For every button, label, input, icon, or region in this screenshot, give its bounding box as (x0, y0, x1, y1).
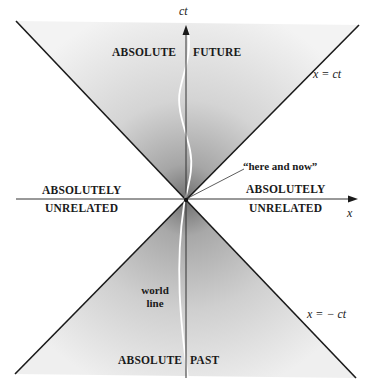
absolute-future-label-left: ABSOLUTE (112, 47, 176, 59)
x-equals-minus-ct-label: x = − ct (307, 308, 346, 320)
absolute-past-label-right: PAST (190, 355, 219, 367)
right-unrelated-label-line2: UNRELATED (249, 203, 322, 215)
left-unrelated-label-line1: ABSOLUTELY (42, 185, 122, 197)
left-unrelated-label-line2: UNRELATED (45, 203, 118, 215)
world-line-label-line1: world (135, 285, 175, 296)
here-and-now-label: “here and now” (243, 161, 317, 172)
x-axis-arrow-icon (348, 196, 358, 203)
x-axis-label: x (347, 207, 352, 219)
right-unrelated-label-line1: ABSOLUTELY (246, 184, 326, 196)
absolute-past-label-left: ABSOLUTE (118, 355, 182, 367)
origin-point (184, 198, 188, 202)
absolute-future-label-right: FUTURE (193, 47, 241, 59)
future-cone-region (16, 21, 359, 200)
world-line-label-line2: line (135, 298, 175, 309)
x-equals-ct-label: x = ct (313, 68, 341, 80)
ct-axis-label: ct (179, 5, 188, 17)
